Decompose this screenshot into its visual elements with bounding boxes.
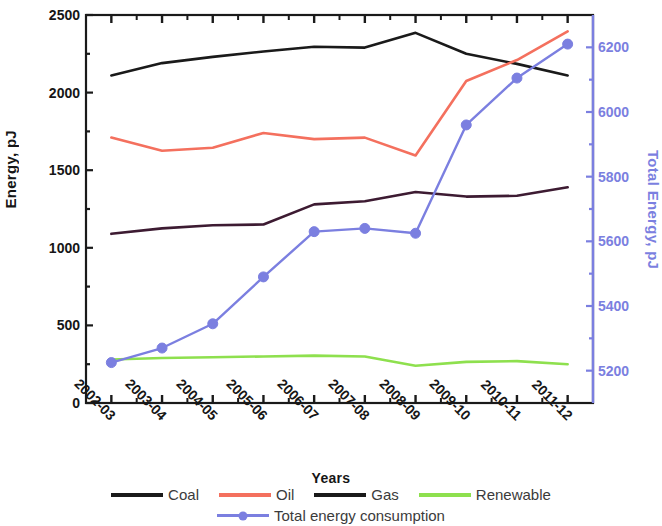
legend-item-label: Total energy consumption [274, 507, 445, 524]
legend-item[interactable]: Renewable [419, 486, 551, 503]
legend-item[interactable]: Total energy consumption [217, 507, 445, 524]
legend-swatch-icon [419, 493, 471, 497]
legend-item[interactable]: Oil [219, 486, 294, 503]
legend-marker-icon [239, 511, 248, 520]
y-axis-left-tick-label: 500 [57, 317, 80, 333]
legend-item-label: Coal [168, 486, 199, 503]
legend-item-label: Gas [371, 486, 399, 503]
legend-item-label: Oil [276, 486, 294, 503]
y-axis-left-tick-label: 2000 [49, 85, 80, 101]
y-axis-right-tick-label: 5200 [598, 363, 629, 379]
legend-item[interactable]: Gas [314, 486, 399, 503]
y-axis-right-tick-label: 5600 [598, 233, 629, 249]
y-axis-right-tick-label: 6200 [598, 39, 629, 55]
legend-item-label: Renewable [476, 486, 551, 503]
chart-legend: CoalOilGasRenewable Total energy consump… [0, 484, 662, 526]
y-axis-left-tick-label: 2500 [49, 7, 80, 23]
y-axis-right-tick-label: 5400 [598, 298, 629, 314]
y-axis-right-tick-label: 6000 [598, 104, 629, 120]
legend-swatch-icon [217, 514, 269, 517]
legend-row-primary: CoalOilGasRenewable [0, 484, 662, 505]
legend-row-secondary: Total energy consumption [0, 505, 662, 526]
y-axis-left-tick-label: 1000 [49, 240, 80, 256]
legend-swatch-icon [314, 493, 366, 497]
y-axis-right-tick-label: 5800 [598, 169, 629, 185]
legend-item[interactable]: Coal [111, 486, 199, 503]
legend-swatch-icon [219, 493, 271, 497]
x-axis-ticks: 2002-032003-042004-052005-062006-072007-… [0, 408, 662, 478]
legend-swatch-icon [111, 493, 163, 497]
y-axis-left-tick-label: 1500 [49, 162, 80, 178]
